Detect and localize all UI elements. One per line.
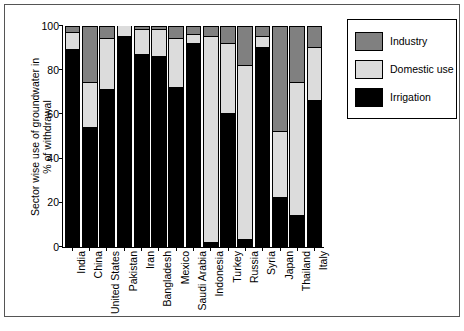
bar-segment-irrigation [168,88,184,247]
bar-column [151,26,167,247]
bar-segment-irrigation [237,240,253,247]
y-axis-label-line: Sector wise use of groundwater in [29,37,41,237]
bar-segment-domestic-use [237,66,253,241]
bar-segment-industry [272,26,288,132]
bar-column [117,26,133,247]
legend-label: Domestic use [390,63,454,75]
x-tick-mark [210,247,211,251]
bar-group [63,26,324,247]
bar-column [237,26,253,247]
x-label-column: Japan [272,251,288,323]
bar-segment-domestic-use [65,33,81,51]
y-tick-label: 100 [41,21,59,32]
x-tick-mark [280,247,281,251]
x-tick-mark [89,247,90,251]
legend: IndustryDomestic useIrrigation [347,19,457,119]
plot-area: 020406080100 Sector wise use of groundwa… [62,26,324,248]
figure-frame: 020406080100 Sector wise use of groundwa… [4,4,460,317]
bar-segment-industry [237,26,253,66]
x-label-column: Iran [133,251,149,323]
y-axis-label-line: % of withdrawal [41,37,53,237]
x-tick-mark [297,247,298,251]
x-tick-mark [141,247,142,251]
bar-segment-industry [168,26,184,39]
x-label-column: Thailand [289,251,305,323]
bar-segment-domestic-use [307,48,323,101]
bar-segment-domestic-use [117,26,133,37]
x-tick-mark [176,247,177,251]
x-label-column: Russia [237,251,253,323]
legend-label: Irrigation [390,91,431,103]
bar-segment-industry [186,26,202,35]
x-label-column: Syria [254,251,270,323]
bar-segment-domestic-use [99,39,115,90]
bar-column [289,26,305,247]
bar-segment-industry [307,26,323,48]
x-tick-label: Italy [318,251,329,270]
x-tick-mark [158,247,159,251]
bar-column [203,26,219,247]
x-label-column: Turkey [220,251,236,323]
bar-segment-irrigation [82,128,98,247]
bar-segment-irrigation [272,198,288,247]
bar-segment-industry [255,26,271,37]
bar-column [220,26,236,247]
x-tick-mark [228,247,229,251]
bar-column [168,26,184,247]
legend-swatch-icon [355,60,383,79]
legend-item[interactable]: Domestic use [355,55,450,83]
x-label-column: Pakistan [116,251,132,323]
bar-segment-irrigation [99,90,115,247]
bar-column [65,26,81,247]
bar-segment-domestic-use [255,37,271,48]
bar-segment-irrigation [151,57,167,247]
x-tick-mark [262,247,263,251]
x-tick-mark [193,247,194,251]
bar-column [272,26,288,247]
x-label-column: India [64,251,80,323]
bar-segment-industry [65,26,81,33]
bar-segment-domestic-use [168,39,184,88]
bar-segment-irrigation [65,50,81,247]
bar-column [186,26,202,247]
bar-segment-domestic-use [82,83,98,127]
bar-segment-irrigation [220,114,236,247]
bar-column [134,26,150,247]
y-tick-label: 0 [53,242,59,253]
figure: 020406080100 Sector wise use of groundwa… [0,0,464,331]
x-tick-mark [106,247,107,251]
bar-segment-industry [289,26,305,83]
bar-segment-domestic-use [151,30,167,57]
x-label-column: United States [98,251,114,323]
bar-column [255,26,271,247]
bar-segment-domestic-use [289,83,305,216]
bar-column [82,26,98,247]
bar-segment-domestic-use [186,35,202,44]
x-label-column: Mexico [168,251,184,323]
bar-segment-industry [99,26,115,39]
legend-item[interactable]: Industry [355,27,450,55]
x-label-column: China [81,251,97,323]
x-tick-mark [124,247,125,251]
x-label-column: Saudi Arabia [185,251,201,323]
bar-segment-irrigation [289,216,305,247]
x-axis-labels: IndiaChinaUnited StatesPakistanIranBangl… [62,251,324,323]
bar-segment-irrigation [255,48,271,247]
bar-segment-irrigation [117,37,133,247]
x-label-column: Italy [306,251,322,323]
legend-swatch-icon [355,88,383,107]
bar-segment-domestic-use [203,37,219,243]
x-label-column: Indonesia [202,251,218,323]
legend-item[interactable]: Irrigation [355,83,450,111]
bar-segment-irrigation [186,44,202,247]
bar-segment-irrigation [134,55,150,247]
legend-label: Industry [390,35,427,47]
x-tick-mark [245,247,246,251]
bar-segment-industry [82,26,98,83]
y-axis-label: Sector wise use of groundwater in% of wi… [29,37,54,237]
bar-segment-irrigation [307,101,323,247]
bar-segment-domestic-use [134,30,150,54]
bar-column [99,26,115,247]
legend-swatch-icon [355,32,383,51]
bar-column [307,26,323,247]
